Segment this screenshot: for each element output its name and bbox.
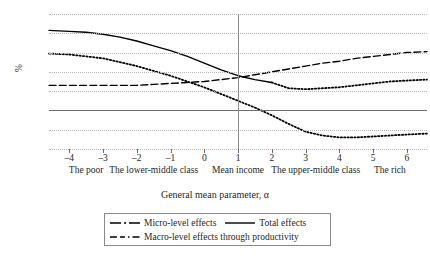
x-category-label: The lower-middle class bbox=[108, 165, 200, 176]
x-axis-title: General mean parameter, α bbox=[0, 189, 430, 200]
legend-swatch-micro-level-effects bbox=[110, 220, 140, 226]
plot-area: –4–3–2–10123456 The poorThe lower-middle… bbox=[49, 14, 427, 149]
x-tick-label: 2 bbox=[257, 153, 287, 163]
legend-label-macro-level-effects: Macro-level effects through productivity bbox=[144, 232, 299, 242]
x-tick-label: –3 bbox=[88, 153, 118, 163]
x-tick-label: 6 bbox=[392, 153, 422, 163]
x-tick-label: –4 bbox=[54, 153, 84, 163]
legend-swatch-macro-level-effects bbox=[110, 234, 140, 240]
series-line bbox=[272, 80, 427, 90]
legend-row-1: Micro-level effects Total effects bbox=[105, 216, 330, 230]
x-tick-label: 3 bbox=[291, 153, 321, 163]
x-tick-label: 0 bbox=[189, 153, 219, 163]
x-tick-label: 5 bbox=[358, 153, 388, 163]
legend-swatch-total-effects bbox=[225, 220, 255, 226]
mean-income-reference-line bbox=[238, 14, 239, 149]
legend-label-micro-level-effects: Micro-level effects bbox=[144, 218, 216, 228]
x-tick-label: –1 bbox=[156, 153, 186, 163]
x-tick-label: 1 bbox=[223, 153, 253, 163]
x-category-label: The rich bbox=[344, 165, 430, 176]
legend-label-total-effects: Total effects bbox=[259, 218, 306, 228]
x-tick-label: –2 bbox=[122, 153, 152, 163]
legend-row-2: Macro-level effects through productivity bbox=[105, 230, 330, 244]
y-axis-label: % bbox=[14, 64, 24, 72]
x-tick-label: 4 bbox=[324, 153, 354, 163]
chart-figure: % 1086420–2–4 –4–3–2–10123456 The poorTh… bbox=[0, 0, 430, 265]
chart-legend: Micro-level effects Total effects Macro-… bbox=[104, 213, 331, 246]
